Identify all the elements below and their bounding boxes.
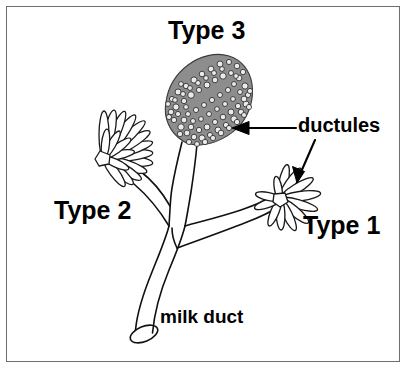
label-type-1: Type 1 [303, 213, 380, 238]
type2-lobule-rosette [95, 109, 154, 189]
label-milk-duct: milk duct [160, 307, 243, 326]
milk-duct-mouth [128, 322, 161, 347]
duct-branch-fold [172, 228, 177, 248]
duct-type3-right-wall [185, 144, 197, 226]
duct-type1-lower-wall [177, 207, 278, 248]
label-ductules: ductules [298, 115, 380, 135]
type3-lobule-cluster [165, 54, 252, 146]
figure-root: Type 3 Type 2 Type 1 ductules milk duct [0, 0, 407, 370]
label-type-2: Type 2 [54, 198, 131, 223]
label-type-3: Type 3 [168, 18, 245, 43]
duct-type3-left-wall [169, 142, 182, 226]
arrow-shaft-to-type1 [301, 140, 315, 172]
